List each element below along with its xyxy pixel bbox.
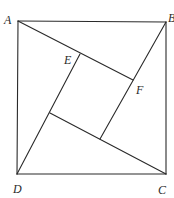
label-a: A	[3, 13, 12, 27]
label-d: D	[12, 182, 22, 196]
geometry-diagram: A B C D E F	[0, 0, 174, 198]
segment-de	[17, 54, 80, 174]
label-e: E	[63, 53, 72, 67]
label-f: F	[135, 83, 144, 97]
segment-b-g	[100, 22, 166, 139]
side-da	[17, 21, 18, 174]
segment-af	[18, 21, 133, 80]
label-b: B	[168, 11, 174, 25]
segment-c-g	[50, 113, 166, 174]
label-c: C	[158, 183, 167, 197]
side-ab	[18, 21, 166, 22]
